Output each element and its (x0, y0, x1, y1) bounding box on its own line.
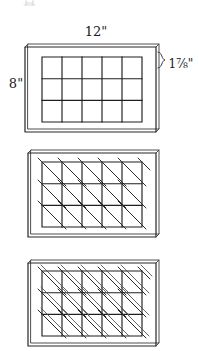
top-crop-artifact (24, 0, 35, 5)
panel-2-board-edges (28, 150, 159, 237)
panel-2-board-front (28, 153, 156, 237)
dimension-label-width: 12" (85, 24, 108, 39)
panel-1-board-front (25, 47, 156, 132)
dimension-label-height: 8" (9, 76, 23, 91)
panel-1-grid-border (42, 57, 142, 122)
figure-root: 12" 8" 1⅞" (0, 0, 199, 351)
dimension-label-cell: 1⅞" (169, 57, 194, 71)
panel-3-board-edges (28, 260, 159, 346)
panel-double-diagonal (28, 260, 159, 346)
panel-2-diagonals (38, 158, 150, 229)
panel-3-diagonals (38, 265, 152, 338)
panel-single-diagonal (28, 150, 159, 237)
panel-1-grid (42, 57, 142, 122)
panel-plain-grid (25, 44, 159, 132)
panel-layout-figure: 12" 8" 1⅞" (0, 0, 199, 351)
